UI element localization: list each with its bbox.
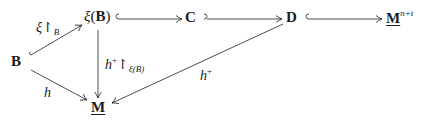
node-mnt-base: M — [386, 10, 400, 26]
edge-xi-b-to-c — [116, 14, 182, 19]
node-c-text: C — [185, 9, 196, 25]
node-xi-b: ξ(B) — [84, 9, 110, 24]
label-h: h — [44, 86, 51, 100]
diagram-canvas — [0, 0, 432, 123]
close-paren: ) — [105, 8, 110, 24]
node-d: D — [286, 10, 297, 25]
node-m-text: M — [91, 99, 105, 115]
hook-tail — [116, 14, 119, 19]
edge-d-to-mnt — [306, 14, 382, 19]
node-m: M — [91, 100, 105, 115]
label-main: h — [200, 68, 207, 83]
label-main: h — [105, 57, 112, 72]
label-h-plus-restrict-xi-b: h+↾ξ(B) — [105, 56, 144, 74]
label-main: h — [44, 85, 51, 100]
hook-tail — [306, 14, 309, 19]
edge-c-to-d — [204, 14, 282, 19]
node-b-text: B — [11, 53, 21, 69]
label-main: ξ↾ — [36, 20, 54, 35]
label-sup: + — [207, 66, 212, 76]
label-h-plus: h+ — [200, 67, 212, 83]
node-mnt-sup: n+t — [400, 8, 413, 18]
edge-b-to-m — [31, 70, 87, 100]
label-sub: B — [54, 27, 60, 37]
hook-tail — [204, 14, 207, 19]
node-xi-arg: B — [95, 8, 105, 24]
node-m-n-plus-t: Mn+t — [386, 9, 413, 26]
hook-tail — [29, 52, 31, 55]
label-xi-restrict-b: ξ↾B — [36, 21, 59, 37]
node-c: C — [185, 10, 196, 25]
label-restrict: ↾ — [117, 57, 129, 72]
node-d-text: D — [286, 9, 297, 25]
node-b: B — [11, 54, 21, 69]
label-sub: ξ(B) — [129, 64, 144, 74]
